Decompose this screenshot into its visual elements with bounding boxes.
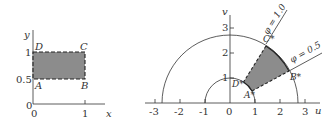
- left-panel: y x 0 0 1 0.5 1 A B C D: [16, 29, 112, 119]
- shaded-sector: [244, 46, 290, 91]
- corner-B: B: [80, 80, 88, 91]
- u-tick-1: 1: [252, 106, 258, 117]
- ray-label-phi-0.5: φ = 0.5: [288, 39, 323, 64]
- x-tick-label-0: 0: [31, 108, 37, 119]
- u-tick-0: 0: [226, 106, 232, 117]
- corner-A: A: [34, 80, 42, 91]
- v-axis-label: v: [222, 6, 228, 17]
- x-axis-label: x: [106, 108, 112, 119]
- y-tick-0.5: 0.5: [16, 74, 32, 85]
- corner-B-star: B*: [289, 72, 302, 82]
- diagram-canvas: y x 0 0 1 0.5 1 A B C D: [0, 0, 334, 121]
- corner-D: D: [34, 41, 43, 52]
- y-axis-label: y: [23, 29, 30, 40]
- u-tick--1: -1: [199, 106, 209, 117]
- u-tick-3: 3: [302, 106, 308, 117]
- u-tick-2: 2: [277, 106, 283, 117]
- corner-A-star: A*: [243, 90, 255, 100]
- v-tick-3: 3: [222, 22, 228, 33]
- corner-C: C: [80, 41, 88, 52]
- v-tick-2: 2: [222, 47, 228, 58]
- corner-D-star: D*: [231, 79, 244, 89]
- x-tick-label-1: 1: [82, 108, 88, 119]
- shaded-rectangle: [33, 52, 85, 79]
- u-axis-label: u: [315, 105, 321, 116]
- u-tick--2: -2: [174, 106, 184, 117]
- y-tick-1: 1: [25, 47, 31, 58]
- right-panel: v u -3 -2 -1 0 1 2 3 1 2 3 1 A* B* C* D*…: [145, 2, 323, 117]
- u-tick--3: -3: [149, 106, 159, 117]
